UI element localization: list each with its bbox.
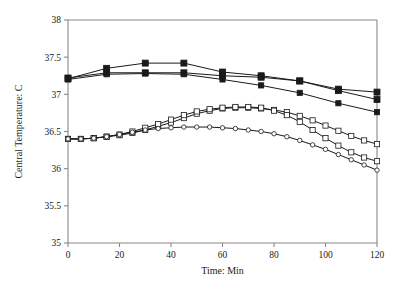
data-point: [259, 83, 264, 88]
data-point: [259, 105, 264, 110]
data-point: [349, 150, 354, 155]
data-point: [143, 71, 148, 76]
data-point: [310, 127, 315, 132]
data-point: [374, 142, 379, 147]
data-point: [168, 117, 173, 122]
data-point: [374, 159, 379, 164]
data-point: [246, 104, 251, 109]
data-point: [220, 105, 225, 110]
data-point: [310, 118, 315, 123]
data-point: [65, 77, 70, 82]
data-point: [169, 126, 173, 130]
x-tick-label: 0: [66, 250, 71, 260]
data-point: [130, 130, 134, 134]
x-tick-label: 100: [318, 250, 333, 260]
data-point: [220, 77, 225, 82]
data-point: [233, 126, 237, 130]
data-point: [323, 123, 328, 128]
data-point: [362, 138, 367, 143]
data-point: [104, 72, 109, 77]
data-point: [375, 168, 379, 172]
data-point: [207, 125, 211, 129]
data-point: [156, 121, 161, 126]
data-point: [181, 72, 186, 77]
y-axis-title: Central Temperature: C: [13, 84, 24, 178]
x-tick-label: 60: [218, 250, 228, 260]
series-lower-series-3: [66, 125, 379, 173]
data-point: [156, 126, 160, 130]
data-point: [285, 134, 289, 138]
labels-group: 3535.53636.53737.538020406080100120Time:…: [13, 15, 384, 276]
data-point: [233, 104, 238, 109]
x-tick-label: 20: [115, 250, 125, 260]
data-point: [142, 60, 148, 66]
y-tick-label: 36.5: [44, 127, 61, 137]
data-point: [362, 155, 367, 160]
chart-canvas: 3535.53636.53737.538020406080100120Time:…: [0, 0, 404, 291]
data-point: [310, 143, 314, 147]
data-point: [362, 163, 366, 167]
data-point: [79, 137, 83, 141]
data-point: [374, 110, 379, 115]
data-point: [336, 128, 341, 133]
y-tick-label: 35: [52, 238, 62, 248]
x-tick-label: 80: [269, 250, 279, 260]
data-point: [323, 136, 328, 141]
data-point: [92, 136, 96, 140]
data-point: [271, 108, 276, 113]
x-axis-title: Time: Min: [201, 265, 244, 276]
y-tick-label: 35.5: [44, 201, 61, 211]
data-point: [246, 128, 250, 132]
series-path: [68, 127, 377, 170]
data-point: [259, 129, 263, 133]
data-point: [284, 113, 289, 118]
data-point: [374, 89, 380, 95]
data-point: [194, 109, 199, 114]
data-point: [297, 78, 303, 84]
data-point: [66, 137, 70, 141]
series-path: [68, 107, 377, 161]
data-point: [335, 88, 341, 94]
x-tick-label: 40: [166, 250, 176, 260]
data-point: [182, 125, 186, 129]
data-point: [181, 113, 186, 118]
series-group: [65, 60, 380, 172]
data-point: [104, 134, 108, 138]
data-point: [207, 107, 212, 112]
data-point: [143, 128, 147, 132]
data-point: [349, 133, 354, 138]
data-point: [336, 101, 341, 106]
axes-group: [64, 20, 377, 247]
y-tick-label: 36: [52, 164, 62, 174]
x-tick-label: 120: [370, 250, 385, 260]
data-point: [258, 74, 264, 80]
data-point: [297, 90, 302, 95]
data-point: [323, 147, 327, 151]
y-tick-label: 37: [52, 90, 62, 100]
y-tick-label: 37.5: [44, 53, 61, 63]
data-point: [349, 158, 353, 162]
data-point: [298, 138, 302, 142]
figure-container: 3535.53636.53737.538020406080100120Time:…: [0, 0, 404, 291]
data-point: [272, 132, 276, 136]
series-upper-series-2: [65, 70, 380, 103]
data-point: [220, 126, 224, 130]
series-lower-series-2: [65, 104, 379, 163]
data-point: [297, 113, 302, 118]
data-point: [117, 132, 121, 136]
data-point: [374, 97, 380, 103]
data-point: [181, 60, 187, 66]
y-tick-label: 38: [52, 15, 62, 25]
data-point: [297, 119, 302, 124]
data-point: [336, 152, 340, 156]
data-point: [195, 125, 199, 129]
data-point: [336, 143, 341, 148]
